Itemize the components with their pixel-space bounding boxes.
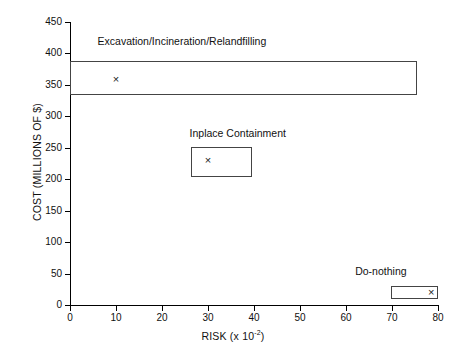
x-tick-mark <box>162 306 163 311</box>
x-tick-mark <box>438 306 439 311</box>
x-tick-mark <box>70 306 71 311</box>
y-axis-title: COST (MILLIONS OF $) <box>31 62 43 262</box>
uncertainty-box <box>70 61 417 95</box>
y-tick-label: 450 <box>34 17 62 27</box>
y-tick-mark <box>65 53 70 54</box>
data-point-marker: × <box>205 155 211 166</box>
x-tick-label: 10 <box>101 313 131 323</box>
x-tick-mark <box>254 306 255 311</box>
x-axis-title-exponent: -2 <box>254 329 261 336</box>
data-point-marker: × <box>113 73 119 84</box>
x-tick-label: 40 <box>239 313 269 323</box>
y-tick-mark <box>65 242 70 243</box>
x-tick-label: 20 <box>147 313 177 323</box>
y-tick-mark <box>65 22 70 23</box>
x-tick-label: 60 <box>331 313 361 323</box>
x-axis-title: RISK (x 10-2) <box>0 329 466 342</box>
y-tick-mark <box>65 116 70 117</box>
uncertainty-box <box>191 147 252 177</box>
y-tick-label: 400 <box>34 48 62 58</box>
x-axis-title-text: RISK (x 10 <box>201 330 254 342</box>
x-tick-mark <box>116 306 117 311</box>
series-label: Excavation/Incineration/Relandfilling <box>98 36 267 47</box>
x-tick-label: 50 <box>285 313 315 323</box>
x-tick-mark <box>346 306 347 311</box>
y-tick-mark <box>65 211 70 212</box>
x-tick-label: 0 <box>55 313 85 323</box>
y-tick-label: 50 <box>34 269 62 279</box>
series-label: Inplace Containment <box>190 128 286 139</box>
y-tick-mark <box>65 179 70 180</box>
series-label: Do-nothing <box>355 266 406 277</box>
y-tick-label: 0 <box>34 300 62 310</box>
data-point-marker: × <box>428 287 434 298</box>
x-tick-label: 30 <box>193 313 223 323</box>
x-tick-mark <box>208 306 209 311</box>
y-tick-mark <box>65 148 70 149</box>
y-tick-mark <box>65 274 70 275</box>
x-tick-label: 80 <box>423 313 453 323</box>
x-axis-title-close: ) <box>261 330 265 342</box>
cost-risk-scatter-chart: 050100150200250300350400450 010203040506… <box>0 0 466 352</box>
x-tick-label: 70 <box>377 313 407 323</box>
x-tick-mark <box>300 306 301 311</box>
x-tick-mark <box>392 306 393 311</box>
